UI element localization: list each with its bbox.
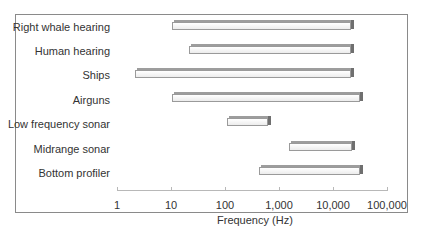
x-tick: [279, 187, 280, 191]
x-tick-label: 10: [165, 199, 177, 211]
range-bar-bottom-profiler: [259, 165, 363, 175]
range-bar-human-hearing: [189, 44, 354, 54]
x-tick: [225, 187, 226, 191]
range-bar-low-frequency-sonar: [227, 116, 271, 126]
x-tick: [171, 187, 172, 191]
x-axis: [117, 190, 387, 191]
range-bar-ships: [135, 68, 354, 78]
x-axis-title: Frequency (Hz): [217, 214, 293, 226]
category-label: Airguns: [73, 94, 110, 106]
x-tick: [333, 187, 334, 191]
category-label: Low frequency sonar: [8, 118, 110, 130]
category-label: Right whale hearing: [13, 21, 110, 33]
category-label: Human hearing: [35, 45, 110, 57]
x-tick-label: 100,000: [367, 199, 407, 211]
range-bar-midrange-sonar: [289, 141, 355, 151]
x-tick-label: 1: [114, 199, 120, 211]
category-label: Midrange sonar: [34, 143, 110, 155]
x-tick-label: 1,000: [265, 199, 293, 211]
x-tick-label: 10,000: [316, 199, 350, 211]
range-bar-right-whale-hearing: [172, 20, 354, 30]
category-label: Bottom profiler: [38, 167, 110, 179]
x-tick: [387, 187, 388, 191]
x-tick: [117, 187, 118, 191]
x-tick-label: 100: [216, 199, 234, 211]
range-bar-airguns: [172, 92, 363, 102]
category-label: Ships: [82, 69, 110, 81]
